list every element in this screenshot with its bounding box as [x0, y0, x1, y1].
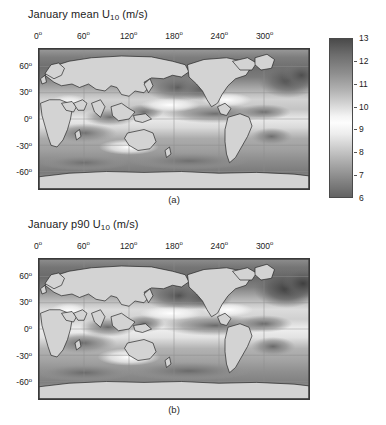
- cbar-a-tick-11: 11: [359, 79, 368, 89]
- y-tick-30: 30o: [19, 297, 32, 308]
- cbar-a-tick-6: 6: [359, 193, 364, 203]
- x-tick-180: 180o: [165, 240, 183, 251]
- x-tick-180: 180o: [165, 30, 183, 41]
- y-tick-0: 0o: [24, 114, 32, 125]
- cbar-a-tick-8: 8: [359, 147, 364, 157]
- panel-a-label: (a): [38, 194, 310, 205]
- panel-b-title-subscript: 10: [101, 223, 110, 232]
- panel-b-title-unit: (m/s): [113, 218, 139, 230]
- cbar-a-tick-10: 10: [359, 102, 368, 112]
- panel-b-label: (b): [38, 404, 310, 415]
- panel-a-title: January mean U10(m/s): [28, 8, 148, 20]
- cbar-a-tick-12: 12: [359, 56, 368, 66]
- panel-a-y-axis: 60o 30o 0o -30o -60o: [0, 48, 36, 190]
- panel-a-map-svg: [39, 49, 309, 189]
- cbar-a-tick-9: 9: [359, 124, 364, 134]
- panel-a-x-axis: 0o 60o 120o 180o 240o 300o: [38, 30, 310, 44]
- cbar-a-tick-7: 7: [359, 170, 364, 180]
- panel-a: January mean U10(m/s) 0o 60o 120o 180o 2…: [0, 0, 386, 212]
- x-tick-0: 0o: [34, 240, 42, 251]
- x-tick-240: 240o: [211, 240, 229, 251]
- panel-b-title-main: January p90 U: [28, 218, 101, 230]
- x-tick-60: 60o: [77, 30, 90, 41]
- panel-a-colorbar-gradient: [329, 38, 353, 198]
- x-tick-240: 240o: [211, 30, 229, 41]
- panel-a-title-unit: (m/s): [122, 8, 148, 20]
- figure-root: January mean U10(m/s) 0o 60o 120o 180o 2…: [0, 0, 386, 425]
- x-tick-300: 300o: [256, 30, 274, 41]
- y-tick-m60: -60o: [16, 377, 32, 388]
- panel-a-title-subscript: 10: [110, 13, 119, 22]
- x-tick-0: 0o: [34, 30, 42, 41]
- y-tick-60: 60o: [19, 60, 32, 71]
- x-tick-60: 60o: [77, 240, 90, 251]
- x-tick-120: 120o: [120, 240, 138, 251]
- panel-b-x-axis: 0o 60o 120o 180o 240o 300o: [38, 240, 310, 254]
- y-tick-m30: -30o: [16, 140, 32, 151]
- panel-a-map: [38, 48, 310, 190]
- y-tick-60: 60o: [19, 270, 32, 281]
- panel-b: January p90 U10(m/s) 0o 60o 120o 180o 24…: [0, 210, 386, 422]
- y-tick-m30: -30o: [16, 350, 32, 361]
- y-tick-0: 0o: [24, 324, 32, 335]
- x-tick-300: 300o: [256, 240, 274, 251]
- cbar-a-tick-13: 13: [359, 33, 368, 43]
- panel-a-colorbar-ticks: 13 12 11 10 9 8 7 6: [354, 38, 386, 198]
- panel-b-title: January p90 U10(m/s): [28, 218, 139, 230]
- x-tick-120: 120o: [120, 30, 138, 41]
- panel-b-map-svg: [39, 259, 309, 399]
- y-tick-30: 30o: [19, 87, 32, 98]
- panel-b-map: [38, 258, 310, 400]
- panel-a-colorbar: 13 12 11 10 9 8 7 6: [329, 38, 353, 198]
- y-tick-m60: -60o: [16, 167, 32, 178]
- panel-a-title-main: January mean U: [28, 8, 110, 20]
- panel-b-y-axis: 60o 30o 0o -30o -60o: [0, 258, 36, 400]
